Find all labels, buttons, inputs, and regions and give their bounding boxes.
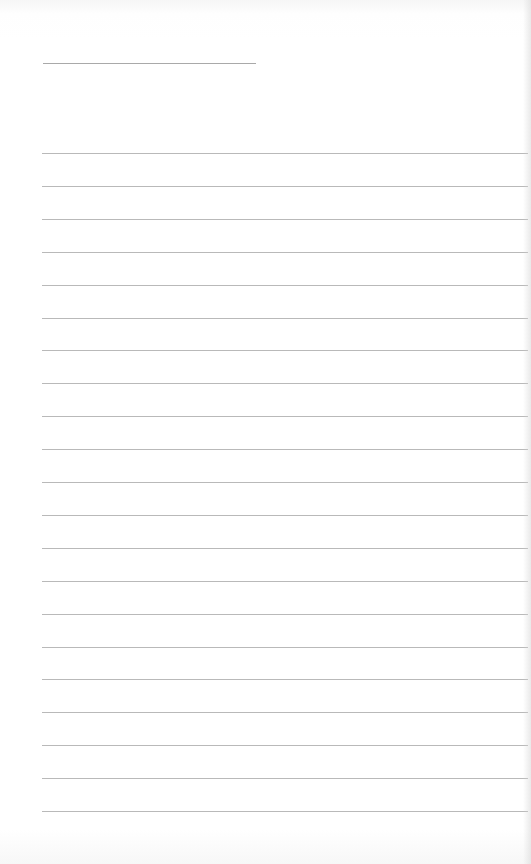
ruled-line (42, 778, 528, 779)
lined-paper-page (0, 0, 531, 864)
ruled-line (42, 548, 528, 549)
ruled-line (42, 416, 528, 417)
ruled-line (42, 745, 528, 746)
ruled-line (42, 318, 528, 319)
ruled-line (42, 614, 528, 615)
ruled-line (42, 712, 528, 713)
ruled-line (42, 449, 528, 450)
ruled-line (42, 153, 528, 154)
ruled-line (42, 252, 528, 253)
ruled-lines (0, 0, 531, 864)
ruled-line (42, 285, 528, 286)
ruled-line (42, 811, 528, 812)
ruled-line (42, 647, 528, 648)
ruled-line (42, 186, 528, 187)
ruled-line (42, 482, 528, 483)
ruled-line (42, 350, 528, 351)
ruled-line (42, 581, 528, 582)
ruled-line (42, 515, 528, 516)
ruled-line (42, 219, 528, 220)
ruled-line (42, 679, 528, 680)
ruled-line (42, 383, 528, 384)
